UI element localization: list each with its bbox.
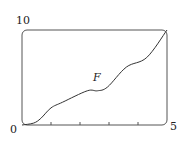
chart: 10 0 5 F <box>0 0 183 144</box>
origin-label: 0 <box>10 123 17 136</box>
curve-label: F <box>92 71 101 84</box>
y-max-label: 10 <box>16 14 30 27</box>
x-max-label: 5 <box>170 120 177 133</box>
